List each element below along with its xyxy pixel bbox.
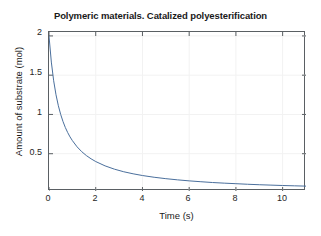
x-tick-label: 6	[185, 193, 190, 203]
x-tick-label: 8	[232, 193, 237, 203]
x-tick-label: 4	[139, 193, 144, 203]
x-tick-label: 2	[92, 193, 97, 203]
x-tick-label: 0	[45, 193, 50, 203]
x-axis-tick-labels: 0 2 4 6 8 10	[0, 193, 321, 207]
plot-area	[48, 31, 305, 190]
grid-lines	[49, 32, 306, 191]
chart-title: Polymeric materials. Catalized polyester…	[0, 10, 321, 21]
y-tick-label: 0.5	[29, 147, 42, 157]
y-tick-label: 1.5	[29, 67, 42, 77]
plot-canvas	[49, 32, 306, 191]
y-axis-label: Amount of substrate (mol)	[13, 22, 24, 182]
y-tick-label: 2	[37, 27, 42, 37]
axis-tick-marks	[49, 32, 306, 191]
x-tick-label: 10	[277, 193, 287, 203]
chart-figure: Polymeric materials. Catalized polyester…	[0, 0, 321, 236]
data-series-line	[49, 36, 306, 186]
data-series-group	[49, 36, 306, 186]
x-axis-label: Time (s)	[48, 210, 305, 221]
